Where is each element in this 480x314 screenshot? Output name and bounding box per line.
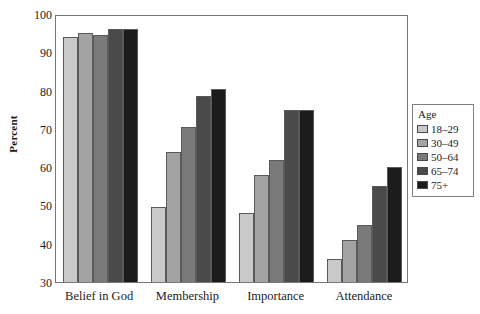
bar-group <box>56 16 144 282</box>
legend-label: 50–64 <box>431 151 459 163</box>
y-axis-tick-60: 60 <box>22 162 52 174</box>
legend-item: 30–49 <box>417 136 469 150</box>
legend-item: 75+ <box>417 178 469 192</box>
y-axis-tick-90: 90 <box>22 47 52 59</box>
y-axis-tick-50: 50 <box>22 200 52 212</box>
bar <box>254 175 269 282</box>
x-axis-label-attendance: Attendance <box>320 288 408 304</box>
legend-item: 50–64 <box>417 150 469 164</box>
bars-container <box>56 16 407 282</box>
bar <box>372 186 387 282</box>
x-axis-label-membership: Membership <box>143 288 231 304</box>
bar-group <box>233 16 321 282</box>
legend-label: 30–49 <box>431 137 459 149</box>
legend-label: 75+ <box>431 179 448 191</box>
legend-items: 18–2930–4950–6465–7475+ <box>417 122 469 192</box>
legend: Age 18–2930–4950–6465–7475+ <box>412 104 474 197</box>
bar-group <box>144 16 232 282</box>
legend-item: 65–74 <box>417 164 469 178</box>
y-axis-tick-80: 80 <box>22 86 52 98</box>
legend-swatch-icon <box>417 181 428 189</box>
legend-title: Age <box>417 108 469 121</box>
legend-swatch-icon <box>417 139 428 147</box>
bar <box>284 110 299 282</box>
bar <box>78 33 93 282</box>
y-axis-tick-30: 30 <box>22 277 52 289</box>
y-axis-tick-labels: 30405060708090100 <box>22 0 52 314</box>
bar <box>196 96 211 282</box>
bar <box>342 240 357 282</box>
plot-area <box>55 15 408 283</box>
x-axis-category-labels: Belief in GodMembershipImportanceAttenda… <box>55 288 408 310</box>
legend-item: 18–29 <box>417 122 469 136</box>
legend-swatch-icon <box>417 167 428 175</box>
bar <box>269 160 284 283</box>
bar-group-bars <box>321 16 409 282</box>
y-axis-tick-70: 70 <box>22 124 52 136</box>
bar-group-bars <box>144 16 232 282</box>
y-axis-tick-40: 40 <box>22 239 52 251</box>
bar <box>387 167 402 282</box>
legend-label: 18–29 <box>431 123 459 135</box>
legend-swatch-icon <box>417 125 428 133</box>
y-axis-title: Percent <box>7 104 19 164</box>
bar <box>357 225 372 282</box>
legend-label: 65–74 <box>431 165 459 177</box>
bar <box>151 207 166 282</box>
bar <box>93 35 108 282</box>
bar-group-bars <box>233 16 321 282</box>
legend-swatch-icon <box>417 153 428 161</box>
x-axis-label-importance: Importance <box>232 288 320 304</box>
bar <box>181 127 196 282</box>
bar <box>63 37 78 282</box>
y-axis-tick-100: 100 <box>22 9 52 21</box>
x-axis-label-belief-in-god: Belief in God <box>55 288 143 304</box>
bar-chart: Percent 30405060708090100 Belief in GodM… <box>0 0 480 314</box>
bar-group <box>321 16 409 282</box>
bar <box>123 29 138 282</box>
bar <box>327 259 342 282</box>
bar <box>211 89 226 282</box>
bar-group-bars <box>56 16 144 282</box>
bar <box>108 29 123 282</box>
bar <box>166 152 181 282</box>
bar <box>299 110 314 282</box>
bar <box>239 213 254 282</box>
